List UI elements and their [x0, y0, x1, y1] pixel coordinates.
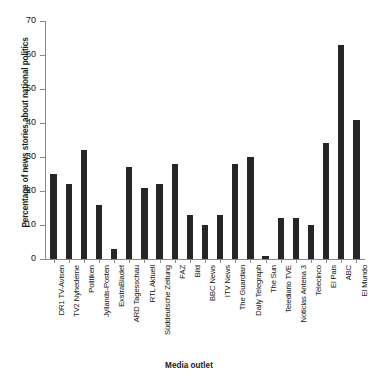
bar-slot — [308, 21, 314, 259]
bar[interactable] — [202, 225, 208, 259]
x-axis-title: Media outlet — [0, 361, 378, 370]
bar-slot — [111, 21, 117, 259]
bar[interactable] — [247, 157, 253, 259]
bar[interactable] — [50, 174, 56, 259]
bar-slot — [232, 21, 238, 259]
x-tick-mark — [281, 259, 282, 263]
bar-slot — [187, 21, 193, 259]
bar[interactable] — [323, 143, 329, 259]
x-tick-label: BBC News — [208, 265, 217, 301]
bar-slot — [96, 21, 102, 259]
bar-slot — [141, 21, 147, 259]
x-tick-mark — [311, 259, 312, 263]
y-tick-label: 70 — [0, 15, 36, 25]
x-tick-label: TV2 Nyhederne — [72, 265, 81, 317]
bar-slot — [338, 21, 344, 259]
y-tick-mark — [40, 157, 45, 158]
bar[interactable] — [217, 215, 223, 259]
x-tick-label: Telediario TVE — [284, 265, 293, 313]
x-tick-mark — [356, 259, 357, 263]
bar-slot — [81, 21, 87, 259]
y-tick-mark — [40, 89, 45, 90]
x-tick-mark — [69, 259, 70, 263]
bar-slot — [217, 21, 223, 259]
x-tick-label: Telecinco — [314, 265, 323, 296]
bar[interactable] — [187, 215, 193, 259]
bar[interactable] — [141, 188, 147, 259]
bar-slot — [202, 21, 208, 259]
y-tick-label: 40 — [0, 117, 36, 127]
bar-slot — [353, 21, 359, 259]
x-tick-label: DR1 TV-Avisen — [57, 265, 66, 315]
bar[interactable] — [308, 225, 314, 259]
bar[interactable] — [293, 218, 299, 259]
x-tick-mark — [129, 259, 130, 263]
y-tick-mark — [40, 21, 45, 22]
x-tick-mark — [54, 259, 55, 263]
bar[interactable] — [338, 45, 344, 259]
x-tick-mark — [341, 259, 342, 263]
x-tick-label: ARD Tagesschau — [132, 265, 141, 322]
x-tick-mark — [220, 259, 221, 263]
bar[interactable] — [278, 218, 284, 259]
bar[interactable] — [81, 150, 87, 259]
bar-slot — [172, 21, 178, 259]
y-tick-label: 60 — [0, 49, 36, 59]
x-tick-mark — [190, 259, 191, 263]
bar[interactable] — [126, 167, 132, 259]
bar-slot — [278, 21, 284, 259]
x-tick-label: ExstraBladet — [117, 265, 126, 307]
bar-slot — [66, 21, 72, 259]
bar[interactable] — [66, 184, 72, 259]
x-tick-label: ABC — [344, 265, 353, 280]
x-tick-mark — [160, 259, 161, 263]
bar[interactable] — [353, 120, 359, 259]
x-tick-mark — [205, 259, 206, 263]
x-tick-mark — [175, 259, 176, 263]
y-tick-label: 0 — [0, 253, 36, 263]
bar-slot — [293, 21, 299, 259]
bar[interactable] — [232, 164, 238, 259]
bar[interactable] — [111, 249, 117, 259]
x-tick-label: Süddeutsche Zeitung — [163, 265, 172, 335]
bar-chart: Percentage of news stories about nationa… — [0, 0, 378, 380]
bar-slot — [323, 21, 329, 259]
bar-slot — [50, 21, 56, 259]
bar[interactable] — [156, 184, 162, 259]
x-tick-label: Daily Telegraph — [254, 265, 263, 316]
bar-slot — [126, 21, 132, 259]
y-tick-mark — [40, 259, 45, 260]
bar[interactable] — [172, 164, 178, 259]
x-tick-mark — [250, 259, 251, 263]
y-tick-label: 50 — [0, 83, 36, 93]
x-tick-label: Bild — [193, 265, 202, 277]
y-tick-label: 30 — [0, 151, 36, 161]
x-tick-label: RTL Aktuell — [148, 265, 157, 302]
x-tick-label: Politiken — [87, 265, 96, 293]
x-tick-label: The Guardian — [238, 265, 247, 310]
x-tick-label: The Sun — [269, 265, 278, 293]
x-tick-mark — [235, 259, 236, 263]
bar[interactable] — [96, 205, 102, 259]
x-tick-label: El Pais — [329, 265, 338, 288]
x-tick-label: ITV News — [223, 265, 232, 297]
y-tick-mark — [40, 225, 45, 226]
x-tick-label: El Mundo — [360, 265, 369, 296]
x-tick-mark — [296, 259, 297, 263]
y-tick-label: 20 — [0, 185, 36, 195]
x-tick-mark — [266, 259, 267, 263]
y-tick-mark — [40, 191, 45, 192]
y-tick-label: 10 — [0, 219, 36, 229]
x-tick-mark — [144, 259, 145, 263]
x-tick-label: Jyllands-Posten — [102, 265, 111, 317]
plot-area — [46, 21, 364, 259]
x-tick-mark — [326, 259, 327, 263]
bar-slot — [262, 21, 268, 259]
x-tick-mark — [84, 259, 85, 263]
bar-slot — [247, 21, 253, 259]
x-tick-label: Noticias Antena 3 — [299, 265, 308, 322]
x-tick-mark — [114, 259, 115, 263]
bar-slot — [156, 21, 162, 259]
x-tick-mark — [99, 259, 100, 263]
x-tick-label: FAZ — [178, 265, 187, 279]
